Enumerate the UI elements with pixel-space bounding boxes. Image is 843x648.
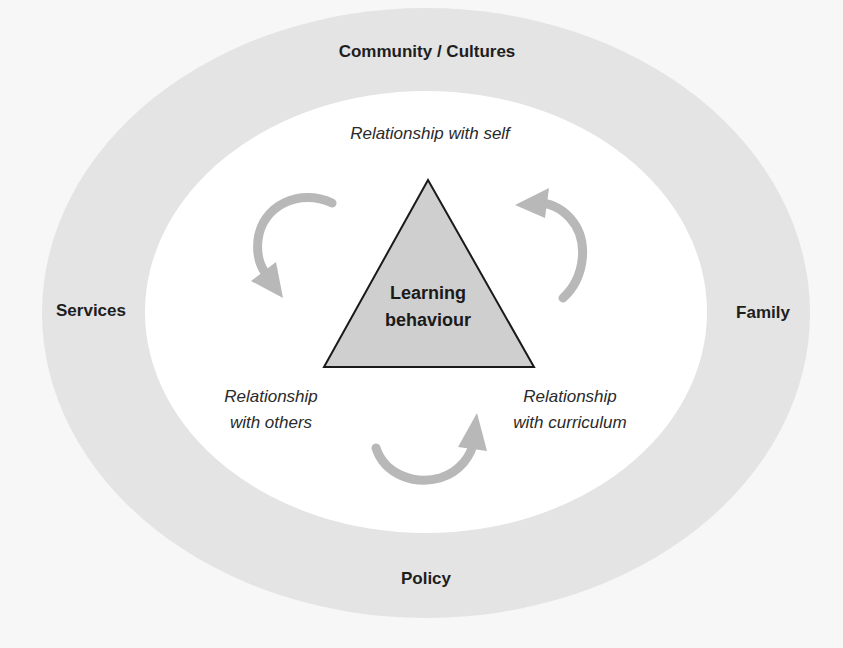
learning-behaviour-line1: Learning — [385, 280, 471, 307]
relationship-with-others-line2: with others — [224, 410, 318, 436]
relationship-with-curriculum-line2: with curriculum — [513, 410, 626, 436]
learning-behaviour-line2: behaviour — [385, 307, 471, 334]
outer-label-family: Family — [736, 303, 790, 323]
relationship-with-self-label: Relationship with self — [350, 121, 510, 147]
relationship-with-others-line1: Relationship — [224, 384, 318, 410]
relationship-with-curriculum-line1: Relationship — [513, 384, 626, 410]
relationship-with-curriculum-label: Relationship with curriculum — [513, 384, 626, 436]
outer-label-policy: Policy — [401, 569, 451, 589]
learning-behaviour-label: Learning behaviour — [385, 280, 471, 334]
outer-label-community-cultures: Community / Cultures — [339, 42, 516, 62]
relationship-with-others-label: Relationship with others — [224, 384, 318, 436]
outer-label-services: Services — [56, 301, 126, 321]
